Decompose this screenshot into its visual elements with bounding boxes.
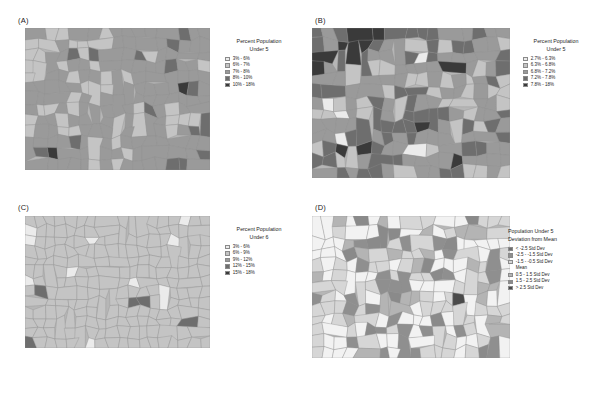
legend-item: 9% - 12%	[225, 257, 293, 262]
legend-swatch	[523, 70, 528, 74]
legend-swatch	[523, 83, 528, 87]
legend-item: 1.5 - 2.5 Std Dev	[508, 279, 588, 284]
figure-canvas: (A) Percent Population Under 5 3% - 6%6%…	[0, 0, 590, 397]
panel-b-map	[312, 28, 510, 178]
legend-swatch	[225, 83, 230, 87]
legend-item-label: 2.7% - 6.3%	[531, 57, 556, 62]
legend-item: 6.8% - 7.2%	[523, 69, 589, 74]
panel-d-label: (D)	[315, 203, 326, 212]
legend-item-label: 6.3% - 6.8%	[531, 63, 556, 68]
legend-swatch	[225, 245, 230, 249]
legend-item: -2.5 - -1.5 Std Dev	[508, 253, 588, 258]
legend-item: 6% - 9%	[225, 251, 293, 256]
legend-item: > 2.5 Std Dev	[508, 286, 588, 291]
legend-item: 7.2% - 7.8%	[523, 76, 589, 81]
panel-a-legend-title-line2: Under 5	[225, 46, 293, 54]
legend-swatch	[508, 280, 513, 284]
legend-swatch	[225, 251, 230, 255]
legend-item: 3% - 6%	[225, 56, 293, 61]
panel-c-legend-items: 3% - 6%6% - 9%9% - 12%12% - 15%15% - 18%	[225, 244, 293, 276]
legend-swatch	[508, 260, 513, 264]
legend-item-label: 6% - 7%	[233, 63, 250, 68]
legend-item-label: 1.5 - 2.5 Std Dev	[516, 279, 550, 284]
legend-item: 2.7% - 6.3%	[523, 56, 589, 61]
legend-item-label: 3% - 6%	[233, 245, 250, 250]
panel-b-label: (B)	[315, 16, 326, 25]
legend-item-label: 7.2% - 7.8%	[531, 76, 556, 81]
legend-swatch	[225, 57, 230, 61]
legend-item: 6% - 7%	[225, 63, 293, 68]
panel-b-legend-title-line2: Under 5	[523, 46, 589, 54]
panel-b: (B) Percent Population Under 5 2.7% - 6.…	[295, 0, 590, 198]
legend-item: < -2.5 Std Dev	[508, 246, 588, 251]
legend-item-label: > 2.5 Std Dev	[516, 286, 543, 291]
legend-item-label: 15% - 18%	[233, 271, 255, 276]
legend-item-label: 12% - 15%	[233, 264, 255, 269]
legend-swatch	[225, 76, 230, 80]
legend-item: Mean	[508, 266, 588, 271]
legend-item-label: 6.8% - 7.2%	[531, 70, 556, 75]
legend-item-label: 9% - 12%	[233, 258, 253, 263]
legend-item-label: 7% - 8%	[233, 70, 250, 75]
legend-item-label: -1.5 - -0.5 Std Dev	[516, 260, 553, 265]
legend-item-label: -2.5 - -1.5 Std Dev	[516, 253, 553, 258]
legend-item: 0.5 - 1.5 Std Dev	[508, 272, 588, 277]
panel-d-legend-title-line2: Deviation from Mean	[508, 236, 588, 244]
panel-a: (A) Percent Population Under 5 3% - 6%6%…	[0, 0, 295, 198]
legend-swatch	[523, 63, 528, 67]
legend-item: 3% - 6%	[225, 244, 293, 249]
legend-item: 12% - 15%	[225, 264, 293, 269]
legend-item-label: < -2.5 Std Dev	[516, 247, 545, 252]
legend-item: 10% - 18%	[225, 82, 293, 87]
panel-a-legend-title-line1: Percent Population	[225, 38, 293, 46]
legend-item-label: 6% - 9%	[233, 251, 250, 256]
panel-d-legend-items: < -2.5 Std Dev-2.5 - -1.5 Std Dev-1.5 - …	[508, 246, 588, 291]
legend-swatch	[225, 271, 230, 275]
legend-item-label: 7.8% - 18%	[531, 83, 554, 88]
legend-item: 15% - 18%	[225, 270, 293, 275]
legend-swatch	[225, 70, 230, 74]
panel-c-map	[25, 216, 210, 348]
legend-swatch	[523, 76, 528, 80]
panel-c: (C) Percent Population Under 6 3% - 6%6%…	[0, 198, 295, 397]
panel-a-map	[25, 28, 210, 170]
legend-item-label: 0.5 - 1.5 Std Dev	[516, 273, 550, 278]
legend-swatch	[508, 253, 513, 257]
panel-d-legend: Population Under 5 Deviation from Mean <…	[508, 228, 588, 292]
legend-item-label: 8% - 10%	[233, 76, 253, 81]
legend-item: -1.5 - -0.5 Std Dev	[508, 259, 588, 264]
panel-c-legend-title-line2: Under 6	[225, 234, 293, 242]
panel-b-legend-items: 2.7% - 6.3%6.3% - 6.8%6.8% - 7.2%7.2% - …	[523, 56, 589, 88]
panel-d-legend-title-line1: Population Under 5	[508, 228, 588, 236]
panel-b-legend-title-line1: Percent Population	[523, 38, 589, 46]
panel-d-map	[312, 216, 510, 358]
legend-swatch	[225, 264, 230, 268]
legend-item-label: Mean	[516, 266, 527, 271]
legend-item: 7% - 8%	[225, 69, 293, 74]
legend-swatch	[508, 286, 513, 290]
legend-swatch	[523, 57, 528, 61]
legend-item: 7.8% - 18%	[523, 82, 589, 87]
panel-a-legend-items: 3% - 6%6% - 7%7% - 8%8% - 10%10% - 18%	[225, 56, 293, 88]
panel-d: (D) Population Under 5 Deviation from Me…	[295, 198, 590, 397]
panel-c-legend: Percent Population Under 6 3% - 6%6% - 9…	[225, 226, 293, 277]
legend-item-label: 3% - 6%	[233, 57, 250, 62]
legend-swatch	[225, 63, 230, 67]
panel-a-legend: Percent Population Under 5 3% - 6%6% - 7…	[225, 38, 293, 89]
legend-item: 6.3% - 6.8%	[523, 63, 589, 68]
legend-item: 8% - 10%	[225, 76, 293, 81]
legend-swatch	[225, 258, 230, 262]
panel-c-legend-title-line1: Percent Population	[225, 226, 293, 234]
legend-swatch	[508, 247, 513, 251]
panel-b-legend: Percent Population Under 5 2.7% - 6.3%6.…	[523, 38, 589, 89]
panel-c-label: (C)	[18, 203, 29, 212]
panel-a-label: (A)	[18, 16, 29, 25]
legend-swatch	[508, 273, 513, 277]
legend-item-label: 10% - 18%	[233, 83, 255, 88]
